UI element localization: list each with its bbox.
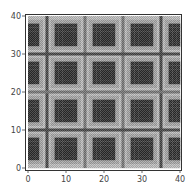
x-tick-label: 0 xyxy=(25,175,30,184)
y-tick-label: 30 xyxy=(11,50,21,59)
y-tick-label: 20 xyxy=(11,88,21,97)
x-tick-label: 20 xyxy=(99,175,109,184)
y-tick-label: 10 xyxy=(11,126,21,135)
y-tick-label: 40 xyxy=(11,12,21,21)
x-tick-label: 10 xyxy=(61,175,71,184)
x-tick-label: 40 xyxy=(175,175,185,184)
y-tick-label: 0 xyxy=(16,164,21,173)
y-axis: 010203040 xyxy=(11,12,26,173)
dither-texture xyxy=(28,16,180,168)
x-tick-label: 30 xyxy=(137,175,147,184)
heatmap-chart: 010203040 010203040 xyxy=(0,0,192,192)
x-axis: 010203040 xyxy=(25,170,185,184)
